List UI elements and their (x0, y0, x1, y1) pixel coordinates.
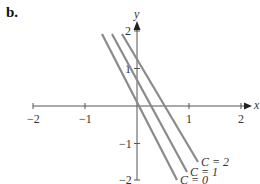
curves (102, 34, 198, 180)
y-tick-label: 2 (125, 24, 131, 38)
curve-label-c0: C = 0 (180, 173, 208, 184)
y-axis-arrow-icon (134, 21, 141, 30)
x-tick-label: −2 (27, 112, 40, 126)
x-axis-label: x (253, 98, 260, 112)
x-tick-label: −1 (79, 112, 92, 126)
figure: b. −2 −1 1 2 2 1 −1 − (0, 0, 260, 184)
panel-label: b. (6, 4, 18, 21)
x-tick-label: 1 (186, 112, 192, 126)
y-tick-label: −2 (119, 173, 132, 184)
line-c2 (122, 34, 198, 162)
x-axis-arrow-icon (244, 103, 252, 110)
x-tick-label: 2 (238, 112, 244, 126)
line-c1 (112, 34, 187, 172)
y-axis-label: y (133, 7, 140, 21)
y-tick-label: −1 (119, 137, 132, 151)
chart-canvas: −2 −1 1 2 2 1 −1 −2 x y C = 2 C = 1 C = … (0, 0, 260, 184)
